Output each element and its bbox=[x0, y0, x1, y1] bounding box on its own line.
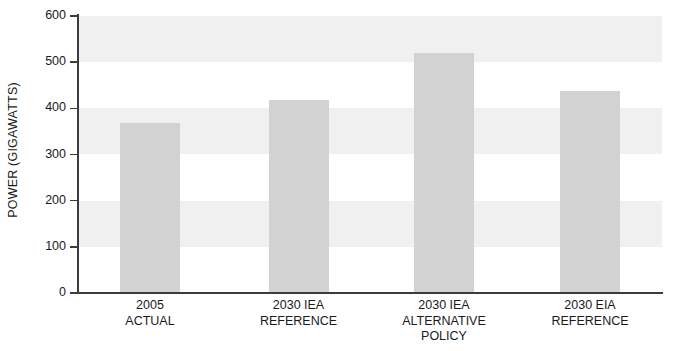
bar bbox=[269, 100, 329, 293]
bar-chart: POWER (GIGAWATTS) 6005004003002001000 20… bbox=[0, 0, 673, 351]
x-axis-category-label-line: 2030 IEA bbox=[369, 298, 519, 314]
x-axis-category-label-line: 2030 IEA bbox=[224, 298, 374, 314]
y-tick-mark bbox=[70, 108, 77, 109]
x-axis-category-label-line: 2030 EIA bbox=[515, 298, 665, 314]
x-axis-category-label-line: ACTUAL bbox=[75, 314, 225, 330]
x-axis-category-label: 2030 IEAREFERENCE bbox=[224, 298, 374, 329]
x-axis-line bbox=[77, 292, 663, 294]
y-tick-label: 100 bbox=[4, 240, 66, 253]
y-tick-label: 600 bbox=[4, 9, 66, 22]
y-tick-mark bbox=[70, 61, 77, 62]
y-tick-mark bbox=[70, 15, 77, 16]
y-tick-label: 400 bbox=[4, 101, 66, 114]
y-tick-label: 500 bbox=[4, 55, 66, 68]
y-tick-mark bbox=[70, 154, 77, 155]
bar-series bbox=[78, 16, 662, 293]
y-tick-mark bbox=[70, 200, 77, 201]
x-axis-category-label-line: REFERENCE bbox=[515, 314, 665, 330]
plot-area bbox=[78, 16, 662, 293]
x-axis-category-label-line: REFERENCE bbox=[224, 314, 374, 330]
bar bbox=[560, 91, 620, 293]
y-tick-mark bbox=[70, 292, 77, 293]
bar bbox=[120, 123, 180, 293]
x-axis-category-label-line: ALTERNATIVE bbox=[369, 314, 519, 330]
y-axis-line bbox=[77, 14, 79, 294]
x-axis-category-label-line: POLICY bbox=[369, 329, 519, 345]
x-axis-category-label: 2030 EIAREFERENCE bbox=[515, 298, 665, 329]
x-axis-category-label: 2030 IEAALTERNATIVEPOLICY bbox=[369, 298, 519, 345]
y-tick-label: 300 bbox=[4, 148, 66, 161]
y-tick-label: 200 bbox=[4, 194, 66, 207]
bar bbox=[414, 53, 474, 293]
x-axis-category-label-line: 2005 bbox=[75, 298, 225, 314]
x-axis-category-label: 2005ACTUAL bbox=[75, 298, 225, 329]
y-tick-label: 0 bbox=[4, 286, 66, 299]
x-axis-category-labels: 2005ACTUAL2030 IEAREFERENCE2030 IEAALTER… bbox=[0, 298, 673, 351]
y-tick-mark bbox=[70, 246, 77, 247]
